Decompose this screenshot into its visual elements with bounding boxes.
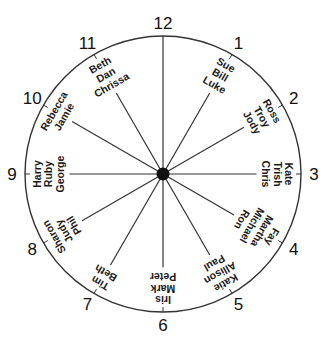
person-name: Trish bbox=[272, 161, 284, 186]
hour-label-8: 8 bbox=[27, 240, 36, 259]
spoke-7 bbox=[111, 174, 164, 265]
name-group-11: BethDanChrissa bbox=[87, 54, 131, 100]
spoke-4 bbox=[163, 174, 234, 215]
person-name: Peter bbox=[150, 271, 176, 283]
person-name: Harry bbox=[31, 160, 43, 188]
name-group-6: IrisMarkPeter bbox=[150, 271, 176, 306]
spoke-10 bbox=[72, 122, 163, 175]
hour-label-3: 3 bbox=[309, 165, 318, 184]
hour-label-1: 1 bbox=[234, 34, 243, 53]
tick-1 bbox=[230, 54, 233, 58]
tick-7 bbox=[94, 289, 97, 293]
person-name: Chris bbox=[260, 161, 272, 188]
hour-label-12: 12 bbox=[154, 14, 173, 33]
name-group-4: FayMarthaMichaelRon bbox=[232, 206, 282, 249]
hour-label-11: 11 bbox=[79, 34, 97, 53]
tick-5 bbox=[230, 289, 233, 293]
name-group-9: HarryRubyGeorge bbox=[31, 155, 66, 192]
spoke-5 bbox=[163, 174, 210, 255]
tick-10 bbox=[43, 105, 47, 108]
name-group-1: SueBillLuke bbox=[201, 55, 238, 96]
spoke-1 bbox=[163, 93, 210, 174]
person-name: Mark bbox=[151, 283, 176, 295]
person-name: Iris bbox=[155, 294, 171, 306]
spoke-2 bbox=[163, 127, 244, 174]
hour-label-10: 10 bbox=[23, 89, 42, 108]
hour-label-5: 5 bbox=[234, 295, 243, 314]
name-group-2: RossTroyJody bbox=[241, 97, 284, 136]
name-group-10: RebeccaJamie bbox=[38, 89, 77, 133]
name-group-3: KateTrishChris bbox=[260, 161, 295, 188]
person-name: George bbox=[54, 155, 66, 192]
tick-8 bbox=[43, 241, 47, 244]
name-group-5: KatieAllisonPaul bbox=[202, 253, 240, 295]
tick-11 bbox=[94, 54, 97, 58]
tick-4 bbox=[278, 241, 282, 244]
hour-label-4: 4 bbox=[289, 240, 298, 259]
center-hub bbox=[157, 168, 170, 181]
name-group-7: TimBeth bbox=[89, 262, 119, 293]
name-group-8: SharonJudyPhil bbox=[39, 214, 83, 256]
person-name: Ruby bbox=[42, 161, 54, 187]
hour-label-6: 6 bbox=[158, 316, 167, 335]
person-name: Kate bbox=[283, 163, 295, 186]
hour-label-2: 2 bbox=[289, 89, 298, 108]
tick-2 bbox=[278, 105, 282, 108]
hour-label-9: 9 bbox=[7, 165, 16, 184]
clock-diagram: 121234567891011 SueBillLukeRossTroyJodyK… bbox=[0, 0, 326, 350]
spoke-8 bbox=[82, 174, 163, 221]
hour-label-7: 7 bbox=[83, 295, 92, 314]
spoke-11 bbox=[116, 93, 163, 174]
